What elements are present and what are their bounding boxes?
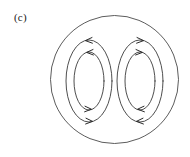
figure-panel: (c) (0, 0, 190, 157)
vortex-diagram (0, 0, 190, 157)
left-outer-bottom-arrow-icon (86, 118, 93, 124)
right-outer-bottom-arrow-icon (136, 118, 143, 124)
right-inner-streamline (125, 52, 155, 110)
left-inner-streamline (74, 52, 104, 110)
right-vortex-cell (117, 38, 163, 125)
left-vortex-cell (66, 38, 112, 125)
outer-boundary-circle (51, 16, 179, 144)
